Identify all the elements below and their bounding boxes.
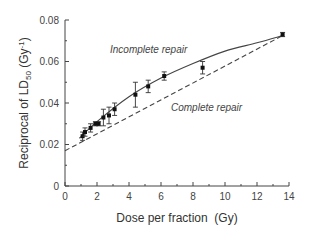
x-tick-label: 6 xyxy=(158,191,164,202)
data-point-marker xyxy=(107,113,111,117)
data-point-marker xyxy=(201,66,205,70)
data-point-marker xyxy=(281,33,285,37)
data-point-marker xyxy=(97,122,101,126)
data-point-marker xyxy=(89,126,93,130)
x-tick-label: 14 xyxy=(283,191,295,202)
y-tick-label: 0 xyxy=(53,181,59,192)
data-point-marker xyxy=(113,107,117,111)
chart: 0246810121400.020.040.060.08 Dose per fr… xyxy=(0,0,309,239)
data-point-marker xyxy=(162,74,166,78)
data-point-marker xyxy=(133,93,137,97)
data-point-marker xyxy=(101,116,105,120)
annotation-incomplete-repair: Incomplete repair xyxy=(110,44,188,55)
x-axis-title: Dose per fraction (Gy) xyxy=(116,211,237,225)
annotation-complete-repair: Complete repair xyxy=(171,102,243,113)
y-tick-label: 0.02 xyxy=(40,139,60,150)
x-tick-label: 10 xyxy=(219,191,231,202)
data-point-marker xyxy=(83,130,87,134)
y-tick-label: 0.08 xyxy=(40,15,60,26)
x-tick-label: 8 xyxy=(190,191,196,202)
x-tick-label: 4 xyxy=(126,191,132,202)
y-tick-label: 0.06 xyxy=(40,56,60,67)
data-point-marker xyxy=(146,84,150,88)
y-tick-label: 0.04 xyxy=(40,98,60,109)
y-axis-title: Reciprocal of LD50 (Gy-1) xyxy=(17,37,33,168)
x-tick-label: 0 xyxy=(62,191,68,202)
x-tick-label: 12 xyxy=(251,191,263,202)
x-tick-label: 2 xyxy=(94,191,100,202)
